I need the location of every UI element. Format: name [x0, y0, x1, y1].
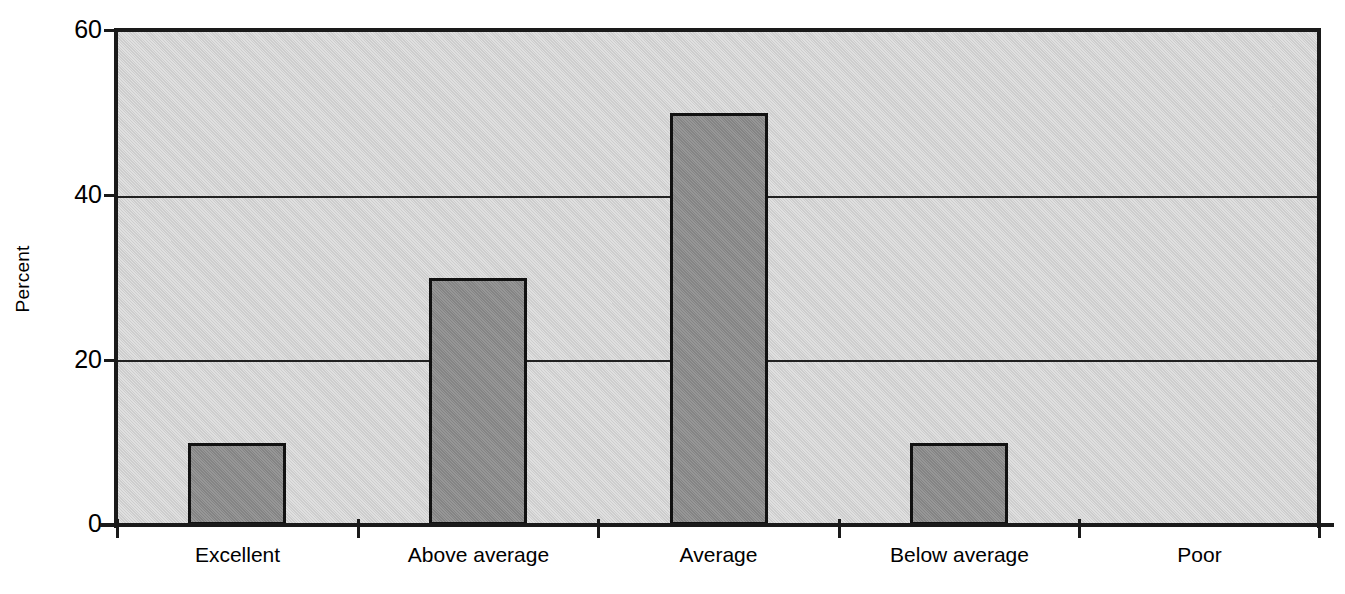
- bar-below-average: [910, 443, 1008, 525]
- plot-border-right: [1317, 28, 1321, 528]
- bar-average: [670, 113, 768, 525]
- x-tick-mark-1: [357, 519, 360, 538]
- x-tick-label-excellent: Excellent: [117, 543, 358, 567]
- x-tick-mark-0: [116, 519, 119, 538]
- y-axis-tick-labels: 60 40 20 0: [34, 0, 102, 594]
- x-tick-label-above-average: Above average: [358, 543, 599, 567]
- plot-area: [117, 31, 1320, 525]
- bar-chart: Percent 60 40 20 0 Excellent Above avera…: [0, 0, 1345, 594]
- x-tick-label-average: Average: [598, 543, 839, 567]
- bar-above-average: [429, 278, 527, 525]
- x-axis-line: [100, 523, 1334, 527]
- x-tick-mark-3: [838, 519, 841, 538]
- bar-excellent: [188, 443, 286, 525]
- y-tick-label-40: 40: [42, 182, 102, 207]
- x-tick-mark-2: [597, 519, 600, 538]
- x-tick-mark-4: [1078, 519, 1081, 538]
- x-tick-mark-5: [1318, 519, 1321, 538]
- y-axis-title: Percent: [12, 229, 34, 329]
- y-tick-label-20: 20: [42, 347, 102, 372]
- x-tick-label-poor: Poor: [1079, 543, 1320, 567]
- x-tick-label-below-average: Below average: [839, 543, 1080, 567]
- y-axis-line: [114, 28, 118, 528]
- y-tick-label-60: 60: [42, 17, 102, 42]
- y-tick-label-0: 0: [42, 511, 102, 536]
- plot-border-top: [117, 28, 1320, 32]
